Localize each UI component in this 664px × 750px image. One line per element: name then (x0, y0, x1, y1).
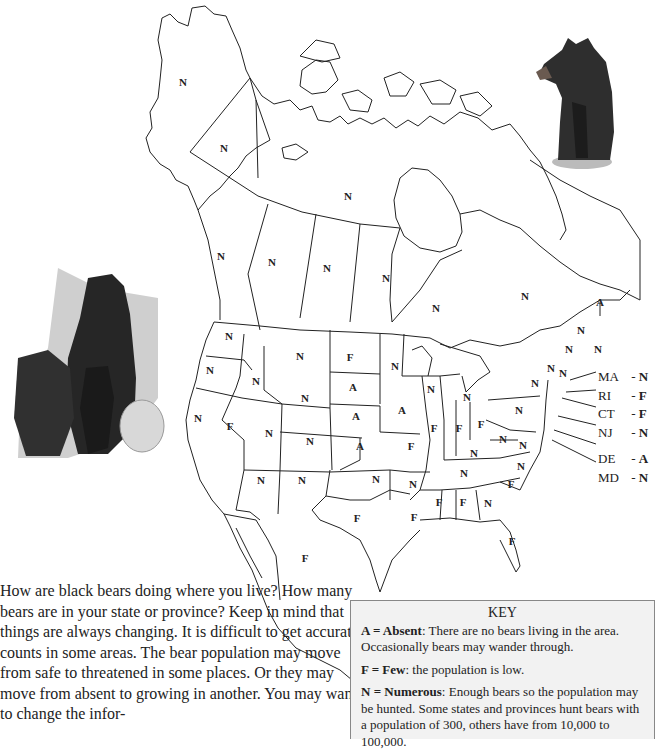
region-label-ok: N (372, 473, 380, 485)
region-label-ny: N (531, 377, 539, 389)
region-label-tn: N (460, 467, 468, 479)
alaska-outline (146, 6, 270, 210)
region-label-nc: N (517, 460, 525, 472)
region-label-fl: F (509, 535, 516, 547)
region-label-bc: N (217, 250, 225, 262)
callout-de: DE - A (598, 450, 648, 469)
bear-cub-illustration (532, 22, 622, 172)
region-label-in: F (456, 422, 463, 434)
texas-outline (312, 496, 420, 592)
region-label-az: N (257, 474, 265, 486)
northeast-callout-list: MA - N RI - F CT - F NJ - N DE - A MD - … (598, 368, 648, 487)
region-label-mi: N (463, 391, 471, 403)
region-label-yt: N (220, 142, 228, 154)
region-label-ab: N (268, 256, 276, 268)
region-label-ms: F (436, 496, 443, 508)
region-label-mt: N (296, 350, 304, 362)
callout-md: MD - N (598, 469, 648, 488)
region-label-ga: N (484, 497, 492, 509)
region-label-ne: A (352, 410, 360, 422)
region-label-on: N (432, 302, 440, 314)
region-label-nv: F (227, 420, 234, 432)
region-label-tx: F (354, 512, 361, 524)
region-label-al: F (460, 496, 467, 508)
region-label-ky: N (470, 447, 478, 459)
region-label-nt: N (344, 190, 352, 202)
region-label-ar: N (409, 478, 417, 490)
region-label-or: N (206, 364, 214, 376)
key-entry-few: F = Few: the population is low. (361, 662, 644, 679)
region-label-mb: N (382, 272, 390, 284)
key-title: KEY (361, 605, 644, 622)
callout-ma: MA - N (598, 368, 648, 387)
legend-key-box: KEY A = Absent: There are no bears livin… (350, 600, 655, 739)
region-label-wa: N (225, 330, 233, 342)
intro-paragraph: How are black bears doing where you live… (0, 581, 362, 725)
region-label-sc: F (508, 478, 515, 490)
region-label-co: N (306, 435, 314, 447)
region-label-wy: N (301, 392, 309, 404)
region-label-ia: A (398, 404, 406, 416)
region-label-ak: N (179, 76, 187, 88)
region-label-sk: N (323, 262, 331, 274)
bear-family-illustration (8, 258, 168, 463)
callout-nj: NJ - N (598, 424, 648, 443)
canada-us-border (214, 290, 630, 348)
us-west-coast (186, 322, 230, 526)
region-label-mo: F (408, 440, 415, 452)
region-label-va: N (519, 439, 527, 451)
region-label-mx: F (302, 552, 309, 564)
region-label-mn: N (391, 360, 399, 372)
region-label-nb: N (577, 324, 585, 336)
region-label-ca: N (194, 412, 202, 424)
region-label-pe: A (596, 296, 604, 308)
region-label-wv: N (499, 433, 507, 445)
region-label-ks: A (356, 440, 364, 452)
region-label-nh: N (547, 362, 555, 374)
region-label-nm: N (298, 474, 306, 486)
region-label-oh: F (478, 418, 485, 430)
region-label-ns: N (594, 343, 602, 355)
region-label-qc: N (521, 290, 529, 302)
region-label-id: N (252, 375, 260, 387)
region-label-wi: N (427, 383, 435, 395)
region-label-me: N (565, 343, 573, 355)
region-label-vt: N (559, 367, 567, 379)
key-entry-absent: A = Absent: There are no bears living in… (361, 623, 644, 656)
hudson-bay (394, 168, 462, 252)
callout-ct: CT - F (598, 405, 648, 424)
key-entry-numerous: N = Numerous: Enough bears so the popula… (361, 684, 644, 750)
region-label-il: F (431, 422, 438, 434)
region-label-sd: A (349, 381, 357, 393)
callout-ri: RI - F (598, 387, 648, 406)
region-label-pa: N (515, 404, 523, 416)
region-label-ut: N (265, 427, 273, 439)
region-label-la: F (411, 511, 418, 523)
region-label-nd: F (347, 351, 354, 363)
